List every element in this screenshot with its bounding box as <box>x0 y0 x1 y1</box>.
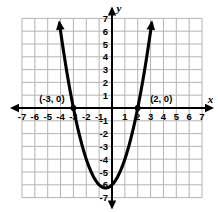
x-tick-label: -4 <box>56 111 65 122</box>
y-tick-label: 2 <box>103 77 108 88</box>
x-tick-label: -6 <box>31 111 39 122</box>
y-tick-label: -3 <box>100 141 108 152</box>
y-tick-label: -2 <box>100 128 108 139</box>
y-tick-label: -7 <box>100 192 108 203</box>
x-tick-label: -2 <box>82 111 90 122</box>
y-tick-label: -1 <box>100 115 109 126</box>
x-tick-label: 7 <box>199 111 204 122</box>
y-tick-label: 7 <box>103 13 108 24</box>
left-intercept-label: (-3, 0) <box>39 93 64 104</box>
x-tick-label: 6 <box>187 111 192 122</box>
y-tick-label: -5 <box>100 167 109 178</box>
y-axis-arrow-up <box>108 6 116 15</box>
x-tick-label: 3 <box>148 111 153 122</box>
y-tick-label: 1 <box>103 90 109 101</box>
x-axis-label: x <box>207 93 214 105</box>
graph-figure: -7-6-5-4-3-2-112345677654321-1-2-3-4-5-6… <box>0 0 218 212</box>
y-axis-arrow-down <box>108 201 116 210</box>
x-tick-label: -5 <box>43 111 52 122</box>
y-tick-label: 4 <box>103 51 109 62</box>
y-tick-label: -4 <box>100 154 109 165</box>
y-tick-label: 6 <box>103 26 108 37</box>
x-tick-label: 5 <box>174 111 180 122</box>
intercept-point <box>135 105 141 111</box>
x-tick-label: 1 <box>122 111 128 122</box>
intercept-point <box>71 105 77 111</box>
right-intercept-label: (2, 0) <box>150 93 172 104</box>
x-axis-arrow-right <box>205 104 214 112</box>
y-axis-label: y <box>115 2 122 14</box>
axes <box>10 6 214 209</box>
y-tick-label: 3 <box>103 64 108 75</box>
coordinate-plane-svg: -7-6-5-4-3-2-112345677654321-1-2-3-4-5-6… <box>0 0 218 212</box>
x-tick-label: 4 <box>161 111 167 122</box>
x-tick-label: -7 <box>18 111 26 122</box>
y-tick-label: 5 <box>103 39 109 50</box>
